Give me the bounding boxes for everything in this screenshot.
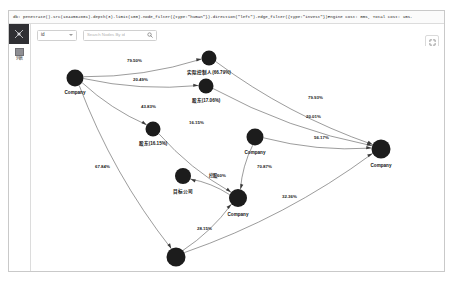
query-status-bar: db: penetrate().src(1844562801).depth(3)… (9, 11, 444, 24)
search-input[interactable]: Search Nodes By id (83, 30, 157, 41)
graph-edge[interactable] (216, 62, 373, 145)
sidebar-item-label: 列表 (16, 57, 24, 61)
toolbar: id Search Nodes By id (31, 24, 444, 46)
node-label: Company (65, 90, 86, 95)
edge-label: 79.93% (308, 95, 323, 100)
edge-label: 16.15% (189, 120, 204, 125)
edge-label: 56.17% (314, 135, 329, 140)
chevron-down-icon (69, 34, 73, 36)
graph-node[interactable] (202, 51, 217, 66)
node-label: Company (371, 163, 392, 168)
edge-label: 控股60% (209, 172, 226, 179)
graph-edges (79, 58, 372, 252)
edge-label: 70.87% (257, 164, 272, 169)
graph-visualization[interactable]: 79.50%20.49%43.83%79.93%20.01%56.17%16.1… (31, 46, 444, 271)
graph-edge[interactable] (213, 89, 372, 146)
node-label: 股东(16.15%) (139, 140, 168, 147)
edge-arrow-icon (193, 84, 198, 87)
edge-label: 79.50% (127, 58, 142, 63)
graph-explorer-window: db: penetrate().src(1844562801).depth(3)… (8, 10, 445, 272)
fullscreen-icon (429, 39, 436, 46)
sidebar: 列表 (9, 24, 31, 271)
edge-label: 67.84% (95, 164, 110, 169)
graph-node[interactable] (175, 168, 191, 184)
edge-arrow-icon (240, 184, 243, 190)
edge-label: 43.83% (141, 104, 156, 109)
graph-edge[interactable] (159, 134, 231, 193)
node-label: 目标公司 (173, 188, 193, 195)
query-text: db: penetrate().src(1844562801).depth(3)… (13, 15, 413, 19)
search-input-placeholder: Search Nodes By id (87, 33, 125, 37)
app-logo-icon[interactable] (9, 24, 29, 44)
node-label: 股东(17.06%) (192, 97, 221, 104)
graph-node[interactable] (372, 140, 391, 159)
node-label: Company (228, 212, 249, 217)
node-label: 实际控制人(66.79%) (187, 69, 231, 76)
edge-arrow-icon (196, 58, 201, 61)
edge-arrow-icon (190, 179, 195, 182)
graph-edge[interactable] (190, 179, 229, 195)
edge-arrow-icon (141, 121, 146, 125)
graph-canvas[interactable]: 79.50%20.49%43.83%79.93%20.01%56.17%16.1… (31, 46, 444, 271)
graph-node[interactable] (167, 248, 186, 267)
edge-label: 28.15% (197, 226, 212, 231)
graph-edge[interactable] (184, 153, 372, 252)
edge-label: 32.36% (282, 194, 297, 199)
edge-label: 20.01% (306, 114, 321, 119)
edge-arrow-icon (226, 188, 231, 193)
graph-edge[interactable] (79, 85, 171, 248)
node-label: Company (245, 150, 266, 155)
node-field-select[interactable]: id (37, 30, 77, 41)
grid-list-icon (15, 48, 24, 56)
graph-node[interactable] (146, 122, 161, 137)
edge-arrow-icon (366, 146, 371, 149)
edge-arrow-icon (227, 204, 232, 209)
sidebar-item-list[interactable]: 列表 (9, 48, 30, 61)
graph-node[interactable] (247, 129, 264, 146)
edge-label: 20.49% (133, 77, 148, 82)
graph-edge[interactable] (83, 59, 201, 77)
search-icon[interactable] (147, 32, 153, 38)
graph-node[interactable] (229, 189, 247, 207)
graph-node[interactable] (199, 79, 214, 94)
node-field-select-value: id (41, 33, 45, 38)
graph-edge[interactable] (82, 83, 147, 125)
graph-node[interactable] (67, 70, 84, 87)
